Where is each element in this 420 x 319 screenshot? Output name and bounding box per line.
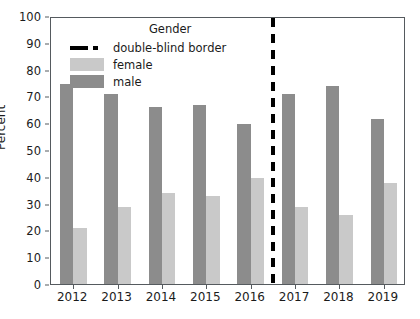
x-axis-tick-mark <box>73 285 74 289</box>
y-axis-label: Percent <box>0 105 8 150</box>
x-axis-tick-label: 2014 <box>146 290 177 304</box>
y-axis-tick-mark <box>45 17 49 18</box>
bar-female-2017 <box>295 207 308 284</box>
x-axis-tick-label: 2017 <box>279 290 310 304</box>
bar-male-2013 <box>104 94 117 284</box>
y-axis-tick-label: 60 <box>26 117 41 131</box>
legend: Genderdouble-blind borderfemalemale <box>70 22 226 90</box>
bar-male-2012 <box>60 84 73 284</box>
y-axis-tick-mark <box>45 124 49 125</box>
y-axis-tick-mark <box>45 177 49 178</box>
y-axis-tick-label: 90 <box>26 37 41 51</box>
bar-female-2012 <box>73 228 86 284</box>
legend-item-label: male <box>113 75 142 89</box>
bar-female-2015 <box>206 196 219 284</box>
y-axis-tick-mark <box>45 43 49 44</box>
legend-item-male[interactable]: male <box>70 73 226 90</box>
bar-female-2013 <box>118 207 131 284</box>
y-axis-tick-label: 40 <box>26 171 41 185</box>
legend-key-icon <box>70 41 104 54</box>
y-axis-tick-label: 80 <box>26 64 41 78</box>
bar-male-2014 <box>149 107 162 284</box>
y-axis-tick-label: 70 <box>26 90 41 104</box>
x-axis-tick-mark <box>339 285 340 289</box>
y-axis-tick-label: 100 <box>19 10 41 24</box>
y-axis-tick-label: 10 <box>26 251 41 265</box>
y-axis: Percent 0102030405060708090100 <box>0 0 50 319</box>
bar-male-2019 <box>371 119 384 284</box>
x-axis-tick-mark <box>295 285 296 289</box>
x-axis-tick-label: 2015 <box>190 290 221 304</box>
x-axis-tick-mark <box>162 285 163 289</box>
y-axis-tick-mark <box>45 151 49 152</box>
bar-male-2015 <box>193 105 206 284</box>
legend-item-female[interactable]: female <box>70 56 226 73</box>
bar-male-2018 <box>326 86 339 284</box>
legend-key-icon <box>70 75 104 88</box>
x-axis-tick-label: 2013 <box>101 290 132 304</box>
y-axis-tick-mark <box>45 97 49 98</box>
x-axis-tick-label: 2012 <box>57 290 88 304</box>
bar-male-2017 <box>282 94 295 284</box>
x-axis-tick-mark <box>251 285 252 289</box>
legend-key-icon <box>70 58 104 71</box>
bar-female-2018 <box>339 215 352 284</box>
y-axis-tick-label: 20 <box>26 224 41 238</box>
x-axis-tick-label: 2018 <box>323 290 354 304</box>
x-axis-tick-mark <box>206 285 207 289</box>
legend-title: Gender <box>114 22 226 36</box>
y-axis-tick-label: 30 <box>26 198 41 212</box>
x-axis-tick-mark <box>384 285 385 289</box>
y-axis-tick-mark <box>45 258 49 259</box>
x-axis-tick-label: 2016 <box>234 290 265 304</box>
y-axis-tick-label: 50 <box>26 144 41 158</box>
legend-item-double-blind-border[interactable]: double-blind border <box>70 39 226 56</box>
chart-figure: Percent 0102030405060708090100 201220132… <box>0 0 420 319</box>
double-blind-border-line <box>271 18 275 284</box>
bar-female-2016 <box>251 178 264 284</box>
y-axis-tick-mark <box>45 285 49 286</box>
y-axis-tick-mark <box>45 231 49 232</box>
y-axis-tick-mark <box>45 204 49 205</box>
y-axis-tick-label: 0 <box>34 278 41 292</box>
legend-item-label: female <box>113 58 153 72</box>
bar-female-2014 <box>162 193 175 284</box>
bar-male-2016 <box>237 124 250 284</box>
bar-female-2019 <box>384 183 397 284</box>
x-axis-tick-label: 2019 <box>368 290 399 304</box>
x-axis-tick-mark <box>118 285 119 289</box>
y-axis-tick-mark <box>45 70 49 71</box>
legend-item-label: double-blind border <box>113 41 226 55</box>
